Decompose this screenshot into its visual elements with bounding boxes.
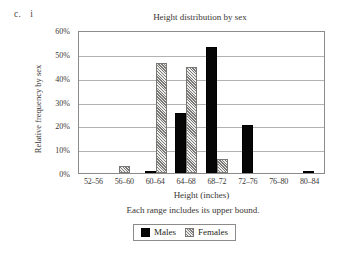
legend-label-males: Males <box>154 227 176 237</box>
x-axis-title: Height (inches) <box>78 190 325 200</box>
y-axis-tick-label: 20% <box>55 122 70 131</box>
x-axis-note: Each range includes its upper bound. <box>48 205 338 215</box>
y-axis-tick-labels: 0%10%20%30%40%50%60% <box>0 31 74 174</box>
x-axis-tick-label: 76–80 <box>263 177 294 186</box>
chart-legend: Males Females <box>133 224 236 241</box>
legend-swatch-males-icon <box>141 228 150 237</box>
bar-males <box>242 125 253 173</box>
y-axis-tick-label: 30% <box>55 98 70 107</box>
legend-entry-males: Males <box>141 227 176 237</box>
bar-males <box>145 171 156 173</box>
plot-area <box>78 31 325 174</box>
chart-title: Height distribution by sex <box>66 12 334 22</box>
y-axis-tick-label: 10% <box>55 146 70 155</box>
y-axis-tick-label: 50% <box>55 50 70 59</box>
bars-layer <box>79 32 324 173</box>
legend-entry-females: Females <box>185 227 228 237</box>
x-axis-tick-label: 64–68 <box>171 177 202 186</box>
bar-group <box>293 32 324 173</box>
x-axis-tick-label: 68–72 <box>202 177 233 186</box>
bar-females <box>186 67 197 173</box>
bar-group <box>110 32 141 173</box>
y-axis-tick-label: 0% <box>59 170 70 179</box>
bar-males <box>206 47 217 173</box>
bar-group <box>263 32 294 173</box>
y-axis-tick-label: 40% <box>55 74 70 83</box>
x-axis-tick-label: 60–64 <box>140 177 171 186</box>
y-axis-tick-label: 60% <box>55 27 70 36</box>
bar-males <box>303 171 314 173</box>
bar-females <box>217 159 228 173</box>
bar-females <box>119 166 130 173</box>
bar-group <box>140 32 171 173</box>
bar-group <box>79 32 110 173</box>
bar-group <box>171 32 202 173</box>
height-distribution-chart: Height distribution by sex Relative freq… <box>0 0 340 256</box>
bar-group <box>202 32 233 173</box>
x-axis-tick-label: 80–84 <box>294 177 325 186</box>
legend-swatch-females-icon <box>185 228 194 237</box>
x-axis-tick-label: 52–56 <box>78 177 109 186</box>
x-axis-tick-label: 72–76 <box>232 177 263 186</box>
x-axis-tick-label: 56–60 <box>109 177 140 186</box>
bar-group <box>232 32 263 173</box>
bar-males <box>175 113 186 173</box>
bar-females <box>156 63 167 173</box>
legend-label-females: Females <box>198 227 228 237</box>
x-axis-tick-labels: 52–5656–6060–6464–6868–7272–7676–8080–84 <box>78 177 325 186</box>
